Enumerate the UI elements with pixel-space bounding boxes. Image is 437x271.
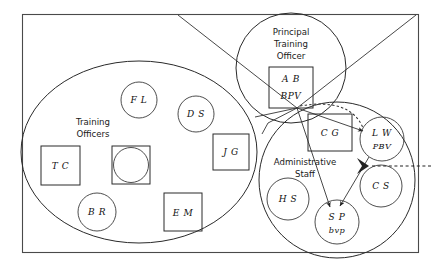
node-jg-label: J G — [221, 147, 238, 157]
node-cg-label: C G — [321, 128, 340, 138]
node-br-label: B R — [87, 207, 106, 217]
group-label-principal-training-officer-line3: Officer — [277, 51, 306, 61]
node-unlabeled-square[interactable] — [112, 146, 150, 184]
node-lw-sublabel: PBV — [372, 141, 392, 151]
sociogram-diagram: F L D S J G T C B R E M A B BPV C G L W … — [0, 0, 437, 271]
group-label-administrative-staff-line2: Staff — [295, 169, 316, 179]
node-ds-label: D S — [186, 109, 205, 119]
group-boundary-training-officers — [21, 61, 257, 243]
node-sp-sublabel: bvp — [329, 225, 346, 235]
node-ab-sublabel: BPV — [280, 91, 303, 101]
diagram-canvas: F L D S J G T C B R E M A B BPV C G L W … — [0, 0, 437, 271]
group-label-training-officers-line2: Officers — [76, 129, 110, 139]
node-sp-label: S P — [329, 212, 346, 222]
node-unlabeled-circle[interactable] — [114, 148, 149, 183]
edge-junction-stub-left — [255, 108, 297, 117]
node-tc-label: T C — [52, 161, 70, 171]
node-lw-shape[interactable] — [360, 117, 404, 161]
group-label-administrative-staff-line1: Administrative — [274, 157, 337, 167]
node-ab-label: A B — [281, 74, 300, 84]
node-cs-label: C S — [372, 181, 390, 191]
group-label-training-officers-line1: Training — [75, 117, 110, 127]
edge-top-right-corner-to-junction — [297, 15, 416, 108]
node-fl-label: F L — [130, 95, 148, 105]
node-sp-shape[interactable] — [315, 200, 359, 244]
node-em-label: E M — [172, 208, 194, 218]
group-label-principal-training-officer-line1: Principal — [273, 27, 310, 37]
group-label-principal-training-officer-line2: Training — [273, 39, 308, 49]
node-hs-label: H S — [278, 194, 298, 204]
node-lw-label: L W — [371, 128, 392, 138]
